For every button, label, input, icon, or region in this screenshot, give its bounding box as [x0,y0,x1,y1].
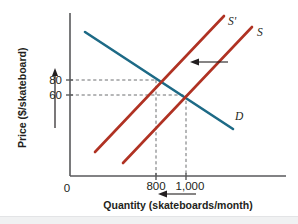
y-axis-title: Price ($/skateboard) [16,48,28,148]
curves-group [85,16,252,163]
origin-label: 0 [64,182,70,194]
x-axis-title: Quantity (skateboards/month) [103,199,252,211]
supply-curve-S-prime [95,16,224,152]
chart-figure: 80 60 800 1,000 0 S' S D Price ($/skateb… [0,0,298,224]
curve-label-S-prime: S' [228,15,237,27]
x-tick-label-800: 800 [146,180,165,192]
y-tick-label-80: 80 [49,74,62,86]
bottom-margin-strip [0,216,298,224]
x-tick-label-1000: 1,000 [176,180,205,192]
curve-label-D: D [234,110,244,122]
guide-lines-group [70,80,186,176]
curve-label-S: S [257,26,263,38]
supply-demand-plot: 80 60 800 1,000 0 S' S D Price ($/skateb… [0,0,298,224]
y-tick-label-60: 60 [49,89,62,101]
